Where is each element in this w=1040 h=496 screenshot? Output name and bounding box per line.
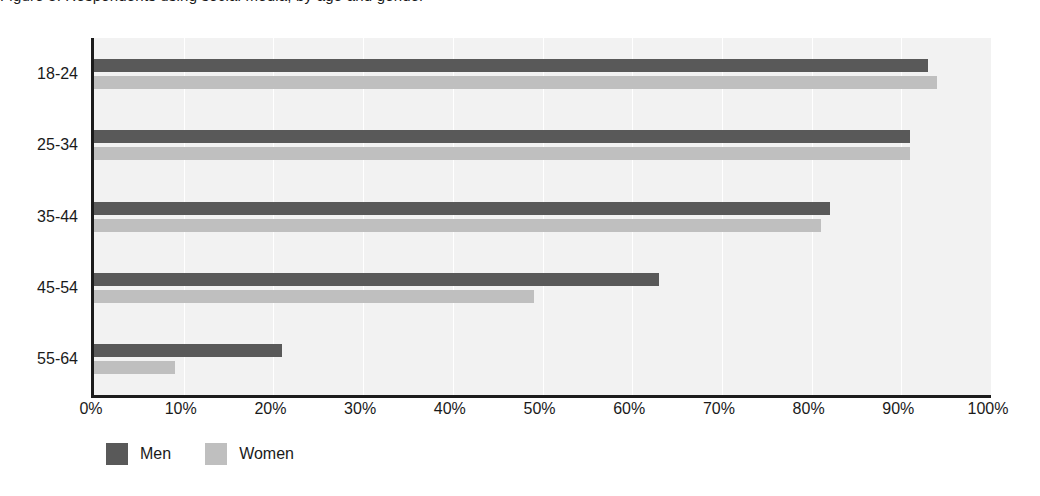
bar-men-45-54 (94, 273, 659, 286)
bar-men-55-64 (94, 344, 282, 357)
bar-group-35-44 (94, 202, 991, 232)
bar-group-25-34 (94, 130, 991, 160)
x-axis-label-80: 80% (793, 400, 825, 418)
x-axis-label-70: 70% (703, 400, 735, 418)
bars-container (94, 38, 991, 395)
x-axis-label-10: 10% (165, 400, 197, 418)
legend-label-women: Women (239, 445, 294, 463)
legend-swatch-women (205, 443, 227, 465)
bar-men-18-24 (94, 59, 928, 72)
x-axis-label-40: 40% (434, 400, 466, 418)
bar-women-55-64 (94, 361, 175, 374)
legend-item-women[interactable]: Women (205, 443, 294, 465)
bar-men-35-44 (94, 202, 830, 215)
x-axis-label-60: 60% (613, 400, 645, 418)
bar-women-25-34 (94, 147, 910, 160)
y-axis-label-25-34: 25-34 (0, 136, 78, 154)
chart-legend: MenWomen (106, 443, 294, 465)
bar-group-18-24 (94, 59, 991, 89)
bar-group-45-54 (94, 273, 991, 303)
bar-group-55-64 (94, 344, 991, 374)
y-axis-label-35-44: 35-44 (0, 208, 78, 226)
chart-plot-area (91, 38, 991, 398)
gridline-100 (991, 38, 992, 395)
bar-men-25-34 (94, 130, 910, 143)
figure-title-clipped: Figure 3. Respondents using social media… (0, 0, 1040, 7)
x-axis-label-90: 90% (882, 400, 914, 418)
x-axis-label-100: 100% (968, 400, 1009, 418)
x-axis-label-0: 0% (79, 400, 102, 418)
x-axis-label-50: 50% (523, 400, 555, 418)
legend-label-men: Men (140, 445, 171, 463)
legend-item-men[interactable]: Men (106, 443, 171, 465)
x-axis-tick-labels: 0%10%20%30%40%50%60%70%80%90%100% (91, 400, 988, 424)
x-axis-label-30: 30% (344, 400, 376, 418)
legend-swatch-men (106, 443, 128, 465)
bar-women-35-44 (94, 219, 821, 232)
y-axis-label-18-24: 18-24 (0, 65, 78, 83)
y-axis-category-labels: 18-2425-3435-4445-5455-64 (0, 38, 78, 395)
bar-women-18-24 (94, 76, 937, 89)
x-axis-label-20: 20% (254, 400, 286, 418)
bar-women-45-54 (94, 290, 534, 303)
y-axis-label-55-64: 55-64 (0, 350, 78, 368)
y-axis-label-45-54: 45-54 (0, 279, 78, 297)
